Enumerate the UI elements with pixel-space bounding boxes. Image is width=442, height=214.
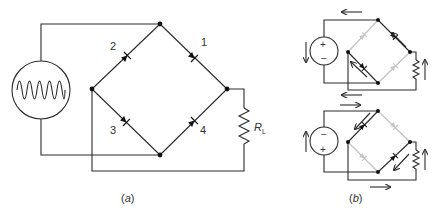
source-minus: − [321, 129, 327, 140]
panel-b-top: + − [306, 12, 425, 95]
node-top [158, 22, 163, 27]
node [346, 140, 350, 144]
caption-b: (b) [349, 192, 362, 204]
node [346, 50, 350, 54]
load-subscript: L [262, 128, 266, 135]
caption-a: (a) [121, 192, 134, 204]
resistor-icon [413, 150, 419, 172]
source-plus: + [320, 39, 326, 50]
node [376, 109, 380, 113]
load-label: R [254, 121, 262, 133]
wire-load-return [348, 52, 416, 90]
current-arrow-icon [392, 33, 406, 47]
node [376, 81, 380, 85]
node [408, 140, 412, 144]
panel-a: 1 2 3 4 R L (a) [12, 22, 266, 204]
resistor-icon [239, 108, 249, 146]
ac-source-icon [12, 61, 70, 119]
node-left [90, 87, 95, 92]
node-bottom [158, 153, 163, 158]
diode-1-icon [187, 51, 198, 62]
node [376, 170, 380, 174]
diode-4-label: 4 [200, 124, 206, 136]
source-plus: + [320, 144, 326, 155]
diode-2-label: 2 [110, 40, 116, 52]
wire-load-top [227, 89, 244, 108]
source-minus: − [321, 53, 327, 64]
bridge-rectifier-figure: 1 2 3 4 R L (a) [0, 0, 442, 214]
resistor-icon [413, 60, 419, 82]
node-right [225, 87, 230, 92]
node [376, 18, 380, 22]
node [408, 50, 412, 54]
wire-load-return [348, 142, 416, 180]
panel-b-bottom: − + (b) [306, 105, 425, 204]
wire-source-top [41, 24, 160, 61]
diode-3-label: 3 [110, 124, 116, 136]
diode-1-label: 1 [201, 36, 207, 48]
